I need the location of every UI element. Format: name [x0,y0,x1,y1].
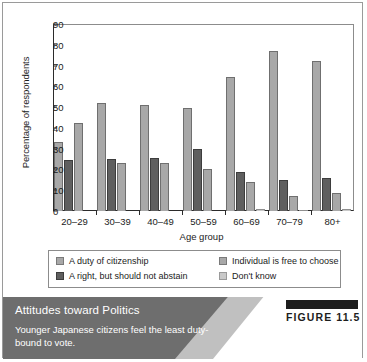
legend-label-right: A right, but should not abstain [69,271,188,281]
chart-legend: A duty of citizenship Individual is free… [48,250,341,288]
y-tick-mark [53,44,57,45]
figure-badge-label: FIGURE 11.5 [286,311,362,323]
bar-groups [53,24,354,211]
y-tick-mark [53,211,57,212]
bar-group [53,24,96,211]
bar [236,172,246,211]
x-tick-label: 80+ [324,216,340,227]
x-tick-mark [311,211,312,215]
legend-swatch-icon-free [219,257,227,265]
bar [256,209,266,211]
bar [342,209,352,211]
legend-item-duty-of-citizenship: A duty of citizenship [56,256,219,266]
bar-group-bars [182,24,226,211]
x-tick-label: 30–39 [104,216,130,227]
y-tick-mark [53,169,57,170]
x-tick-label: 40–49 [147,216,173,227]
chart-card: Percentage of respondents 01020304050607… [3,3,362,295]
legend-swatch-icon-duty [56,257,64,265]
y-axis-title: Percentage of respondents [20,33,31,193]
x-tick-mark [96,211,97,215]
x-tick-label: 50–59 [190,216,216,227]
x-tick-mark [139,211,140,215]
bar [74,123,84,211]
y-tick-mark [53,65,57,66]
bar [160,163,170,211]
legend-label-free: Individual is free to choose [232,256,339,266]
bar-group [139,24,182,211]
bar-group [96,24,139,211]
x-tick-label: 60–69 [233,216,259,227]
bar [269,51,279,211]
legend-swatch-icon-right [56,272,64,280]
plot-wrapper: 0102030405060708090 20–2930–3940–4950–59… [49,24,354,215]
bar [299,210,309,211]
legend-row-bottom: A right, but should not abstain Don't kn… [56,271,276,281]
bar-group [311,24,354,211]
legend-row-top: A duty of citizenship Individual is free… [56,256,339,266]
bar [322,178,332,211]
bar-group-bars [225,24,269,211]
bar [117,163,127,211]
x-tick-label: 20–29 [61,216,87,227]
bar [64,160,74,211]
y-tick-mark [53,86,57,87]
y-tick-mark [53,190,57,191]
bar [193,149,203,211]
x-tick-label: 70–79 [276,216,302,227]
legend-label-dontknow: Don't know [232,271,276,281]
y-tick-mark [53,148,57,149]
x-tick-mark [268,211,269,215]
bar-group [225,24,268,211]
legend-swatch-icon-dontknow [219,272,227,280]
y-tick-mark [53,127,57,128]
bar-group-bars [53,24,97,211]
legend-item-free-to-choose: Individual is free to choose [219,256,339,266]
bar [140,105,150,211]
caption-description: Younger Japanese citizens feel the least… [15,323,220,349]
bar-group [182,24,225,211]
bar [279,180,289,211]
bar [203,169,213,211]
bar [107,159,117,211]
y-tick-mark [53,24,57,25]
caption-band: Attitudes toward Politics Younger Japane… [3,297,362,359]
figure-container: Percentage of respondents 01020304050607… [0,0,367,362]
figure-badge-bar [286,300,358,309]
bar [289,196,299,211]
bar-group-bars [96,24,140,211]
bar-group-bars [268,24,312,211]
bar [332,193,342,211]
bar [246,182,256,211]
bar [97,103,107,211]
bar-group [268,24,311,211]
y-tick-mark [53,107,57,108]
caption-title: Attitudes toward Politics [15,304,140,316]
x-tick-mark [182,211,183,215]
bar [312,61,322,211]
x-axis-title: Age group [49,231,354,242]
bar-group-bars [311,24,355,211]
legend-label-duty: A duty of citizenship [69,256,149,266]
bar [150,158,160,211]
bar [226,77,236,211]
legend-item-right-not-abstain: A right, but should not abstain [56,271,219,281]
x-tick-mark [225,211,226,215]
legend-item-dont-know: Don't know [219,271,276,281]
bar-group-bars [139,24,183,211]
bar [183,108,193,211]
